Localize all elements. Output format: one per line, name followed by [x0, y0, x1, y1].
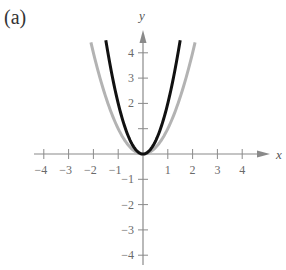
y-tick-label: −1: [121, 172, 134, 186]
x-axis-label: x: [275, 147, 282, 162]
y-tick-label: −2: [121, 198, 134, 212]
y-tick-label: 2: [128, 96, 134, 110]
x-tick-label: −4: [34, 163, 47, 177]
x-tick-label: 1: [165, 163, 171, 177]
x-tick-label: −1: [109, 163, 122, 177]
x-axis-arrow-icon: [257, 151, 270, 158]
y-tick-label: 4: [128, 46, 134, 60]
y-tick-label: 3: [128, 71, 134, 85]
x-tick-label: 2: [190, 163, 196, 177]
y-tick-label: −3: [121, 223, 134, 237]
x-tick-label: 3: [214, 163, 220, 177]
y-axis-label: y: [137, 8, 145, 23]
y-axis-arrow-icon: [140, 30, 147, 43]
parabola-chart: −4−3−2−11234432−1−2−3−4xy: [0, 0, 286, 270]
x-tick-label: −2: [84, 163, 97, 177]
x-tick-label: −3: [59, 163, 72, 177]
x-tick-label: 4: [239, 163, 245, 177]
y-tick-label: −4: [121, 248, 134, 262]
